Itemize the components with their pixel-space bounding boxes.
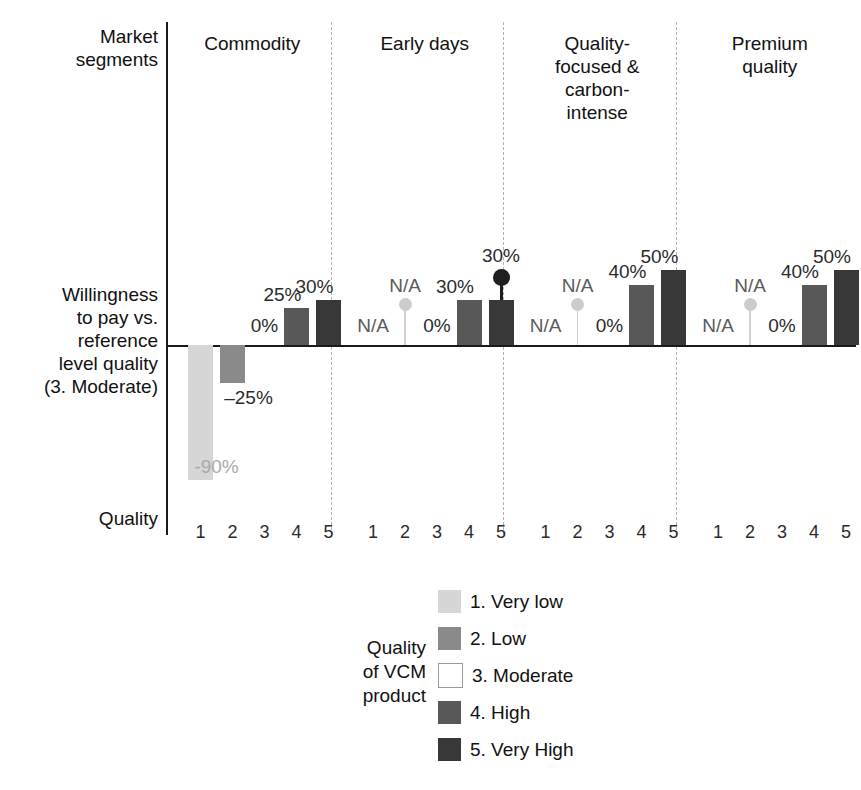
quality-tick: 2 (565, 522, 590, 543)
quality-tick: 1 (706, 522, 731, 543)
legend-swatch-icon (438, 590, 461, 613)
legend-label: 3. Moderate (472, 665, 573, 687)
legend-swatch-icon (438, 701, 461, 724)
quality-tick: 3 (597, 522, 622, 543)
legend-item-5[interactable]: 5. Very High (438, 731, 738, 768)
plot-area: CommodityEarly daysQuality-focused &carb… (166, 22, 856, 535)
quality-tick: 4 (284, 522, 309, 543)
bar-q4 (802, 285, 827, 345)
quality-tick: 1 (188, 522, 213, 543)
legend-swatch-icon (438, 738, 461, 761)
legend-swatch-icon (438, 627, 461, 650)
bar-q5 (834, 270, 859, 345)
bar-q5 (661, 270, 686, 345)
legend-item-1[interactable]: 1. Very low (438, 583, 738, 620)
na-pin-dot (571, 298, 584, 311)
value-label-q5: 30% (283, 276, 347, 297)
value-label-q5: 50% (800, 246, 861, 267)
value-label-q1: N/A (341, 315, 405, 336)
zero-baseline (166, 345, 856, 347)
value-label-q2: –25% (217, 387, 281, 408)
group-header-2: Early days (339, 32, 512, 55)
legend-label: 5. Very High (470, 739, 574, 761)
value-label-q5: 30% (469, 245, 533, 266)
group-header-1: Commodity (166, 32, 339, 55)
legend-swatch-icon (438, 663, 463, 688)
legend-title: Qualityof VCMproduct (286, 636, 426, 708)
na-pin-dot (399, 298, 412, 311)
y-axis-line (166, 22, 168, 535)
quality-tick: 4 (802, 522, 827, 543)
na-pin-dot (744, 298, 757, 311)
legend-item-3[interactable]: 3. Moderate (438, 657, 738, 694)
quality-tick: 1 (533, 522, 558, 543)
quality-tick: 3 (252, 522, 277, 543)
group-header-3: Quality-focused &carbon-intense (511, 32, 684, 124)
legend-label: 4. High (470, 702, 530, 724)
quality-tick: 3 (425, 522, 450, 543)
group-header-4: Premiumquality (684, 32, 857, 78)
value-label-q1: -90% (185, 456, 249, 477)
legend-item-2[interactable]: 2. Low (438, 620, 738, 657)
quality-tick: 3 (770, 522, 795, 543)
willingness-to-pay-row-label: Willingnessto pay vs.referencelevel qual… (4, 283, 158, 398)
bar-q2 (220, 345, 245, 383)
quality-tick: 1 (361, 522, 386, 543)
bar-q4 (629, 285, 654, 345)
legend-label: 1. Very low (470, 591, 563, 613)
value-label-q1: N/A (686, 315, 750, 336)
quality-tick: 2 (220, 522, 245, 543)
value-label-q1: N/A (514, 315, 578, 336)
legend-item-4[interactable]: 4. High (438, 694, 738, 731)
legend-label: 2. Low (470, 628, 526, 650)
quality-tick: 5 (489, 522, 514, 543)
legend: 1. Very low2. Low3. Moderate4. High5. Ve… (438, 583, 738, 768)
bar-q4 (284, 308, 309, 346)
bar-q5 (316, 300, 341, 345)
bar-q5 (489, 300, 514, 345)
quality-tick: 2 (738, 522, 763, 543)
quality-tick: 4 (629, 522, 654, 543)
bar-q4 (457, 300, 482, 345)
quality-tick: 5 (316, 522, 341, 543)
quality-tick: 5 (834, 522, 859, 543)
quality-tick: 5 (661, 522, 686, 543)
quality-row-label: Quality (10, 507, 158, 530)
marker-dot (493, 269, 510, 286)
chart-figure: Marketsegments Willingnessto pay vs.refe… (0, 0, 861, 790)
quality-tick: 2 (393, 522, 418, 543)
market-segments-row-label: Marketsegments (10, 25, 158, 71)
value-label-q4: 30% (423, 276, 487, 297)
value-label-q5: 50% (628, 246, 692, 267)
quality-tick: 4 (457, 522, 482, 543)
